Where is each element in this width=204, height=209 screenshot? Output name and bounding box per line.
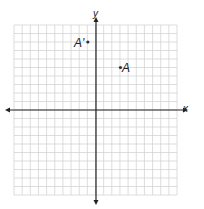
point-a-prime-label: A' <box>74 37 84 49</box>
point-a-label: A <box>122 62 130 74</box>
x-axis-label: x <box>183 104 188 114</box>
y-axis-down-arrow-icon <box>94 200 99 205</box>
point-a-prime-marker <box>86 40 89 43</box>
y-axis-label: y <box>93 9 98 19</box>
coordinate-grid <box>0 0 204 209</box>
x-axis-left-arrow-icon <box>5 108 10 113</box>
